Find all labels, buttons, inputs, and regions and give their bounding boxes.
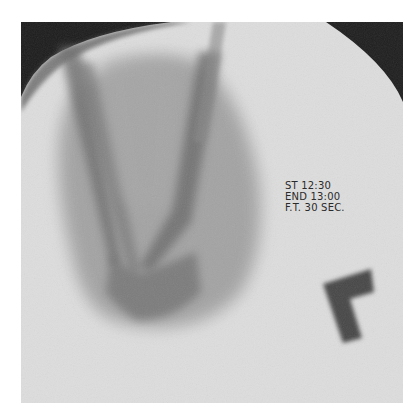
fluoro-time-label: F.T. 30 SEC. [285, 202, 345, 213]
end-time-label: END 13:00 [285, 191, 345, 202]
xray-content [21, 22, 403, 403]
xray-image: ST 12:30 END 13:00 F.T. 30 SEC. [21, 22, 403, 403]
exposure-annotation: ST 12:30 END 13:00 F.T. 30 SEC. [285, 180, 345, 213]
start-time-label: ST 12:30 [285, 180, 345, 191]
